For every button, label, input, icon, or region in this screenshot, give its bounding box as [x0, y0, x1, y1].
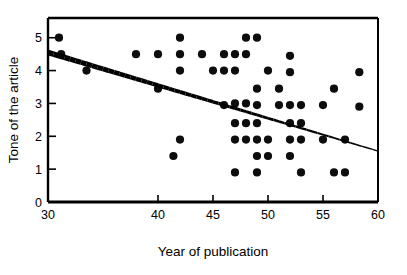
regression-line-segment — [191, 95, 197, 97]
x-tick-label: 50 — [261, 208, 275, 222]
regression-line-segment — [65, 57, 71, 59]
data-point — [231, 168, 239, 176]
regression-line-segment — [142, 80, 148, 82]
regression-line-segment — [362, 146, 368, 148]
regression-line-segment — [109, 71, 115, 73]
y-tick-label: 5 — [35, 31, 42, 45]
regression-line-segment — [98, 67, 104, 69]
regression-line-segment — [290, 125, 296, 127]
data-point — [275, 85, 283, 93]
data-point — [242, 119, 250, 127]
regression-line-segment — [169, 89, 175, 91]
data-point — [286, 68, 294, 76]
regression-line-segment — [334, 138, 340, 140]
data-point — [264, 152, 272, 160]
regression-line-segment — [257, 115, 263, 117]
data-point — [253, 85, 261, 93]
data-point — [220, 50, 228, 58]
regression-line-segment — [301, 128, 307, 130]
data-point — [242, 135, 250, 143]
data-point — [132, 50, 140, 58]
data-point — [286, 135, 294, 143]
regression-line-segment — [87, 64, 93, 66]
regression-line-segment — [307, 130, 313, 132]
data-point — [55, 34, 63, 42]
data-point — [176, 66, 184, 74]
regression-line-segment — [263, 117, 269, 119]
data-point — [242, 99, 250, 107]
data-points-layer — [55, 34, 364, 177]
regression-line-segment — [274, 120, 280, 122]
regression-line-segment — [158, 85, 164, 87]
data-point — [264, 66, 272, 74]
regression-line-segment — [147, 82, 153, 84]
regression-line-segment — [241, 110, 247, 112]
data-point — [253, 152, 261, 160]
regression-line-segment — [268, 118, 274, 120]
data-point — [253, 34, 261, 42]
data-point — [242, 50, 250, 58]
regression-line-segment — [246, 112, 252, 114]
regression-line-segment — [224, 105, 230, 107]
data-point — [286, 52, 294, 60]
x-tick-label: 60 — [371, 208, 385, 222]
regression-line-segment — [318, 133, 324, 135]
regression-line-segment — [103, 69, 109, 71]
regression-line-segment — [131, 77, 137, 79]
data-point — [231, 119, 239, 127]
data-point — [355, 68, 363, 76]
data-point — [154, 50, 162, 58]
data-point — [297, 135, 305, 143]
scatter-plot-figure: 304045505560 012345 Year of publication … — [0, 0, 407, 275]
regression-line-segment — [59, 56, 65, 58]
regression-line-segment — [197, 97, 203, 99]
data-point — [231, 135, 239, 143]
x-tick-label: 55 — [316, 208, 330, 222]
data-point — [253, 119, 261, 127]
regression-line-segment — [92, 66, 98, 68]
data-point — [198, 50, 206, 58]
regression-line-segment — [235, 108, 241, 110]
y-tick-label: 2 — [35, 130, 42, 144]
regression-line-segment — [312, 131, 318, 133]
data-point — [242, 34, 250, 42]
regression-line-segment — [48, 53, 54, 55]
regression-line-segment — [120, 74, 126, 76]
data-point — [330, 85, 338, 93]
regression-line-segment — [219, 103, 225, 105]
y-tick-label: 3 — [35, 97, 42, 111]
plot-canvas: 304045505560 012345 Year of publication … — [0, 0, 407, 275]
data-point — [82, 66, 90, 74]
regression-line-segment — [279, 122, 285, 124]
regression-line-segment — [186, 94, 192, 96]
regression-line-segment — [164, 87, 170, 89]
regression-line-segment — [208, 100, 214, 102]
regression-line-segment — [175, 90, 181, 92]
regression-line-segment — [202, 99, 208, 101]
regression-line-segment — [367, 148, 373, 150]
regression-line-segment — [125, 76, 131, 78]
data-point — [275, 101, 283, 109]
regression-line-segment — [180, 92, 186, 94]
data-point — [253, 101, 261, 109]
regression-line-segment — [329, 136, 335, 138]
data-point — [169, 152, 177, 160]
data-point — [220, 66, 228, 74]
regression-line-segment — [213, 102, 219, 104]
data-point — [264, 135, 272, 143]
data-point — [330, 168, 338, 176]
x-tick-label: 45 — [206, 208, 220, 222]
data-point — [253, 135, 261, 143]
x-axis-title: Year of publication — [158, 244, 269, 259]
regression-line-segment — [70, 59, 76, 61]
regression-line-segment — [54, 54, 60, 56]
regression-line-segment — [285, 123, 291, 125]
y-axis-tick-labels: 012345 — [35, 31, 42, 209]
regression-line-segment — [81, 62, 87, 64]
data-point — [286, 101, 294, 109]
y-tick-label: 1 — [35, 163, 42, 177]
data-point — [286, 152, 294, 160]
regression-line-segment — [351, 143, 357, 145]
plot-frame — [48, 18, 378, 202]
data-point — [355, 103, 363, 111]
